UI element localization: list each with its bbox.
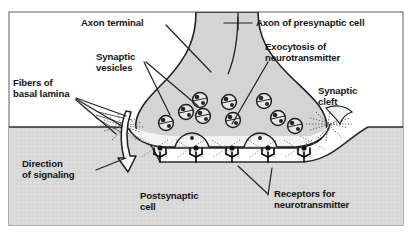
label-synaptic-vesicles-line1: Synaptic (96, 51, 136, 62)
synaptic-vesicle (226, 113, 241, 128)
label-synaptic-vesicles-line2: vesicles (96, 62, 133, 73)
label-direction-line1: Direction (22, 158, 63, 169)
synaptic-vesicle (193, 93, 208, 108)
synaptic-vesicle (271, 111, 286, 126)
label-exocytosis-line2: neurotransmitter (265, 52, 341, 63)
label-synaptic-cleft-line1: Synaptic (318, 85, 358, 96)
label-axon-presynaptic: Axon of presynaptic cell (256, 17, 365, 28)
synaptic-vesicle (257, 94, 272, 109)
fusing-vesicle (258, 136, 262, 140)
fusing-vesicle (190, 136, 194, 140)
label-postsynaptic-line2: cell (140, 201, 156, 212)
label-axon-terminal: Axon terminal (81, 17, 144, 28)
synaptic-vesicle (159, 116, 174, 131)
synapse-diagram-figure: Axon terminal Axon of presynaptic cell S… (0, 0, 413, 237)
label-fibers-line2: basal lamina (13, 88, 70, 99)
synaptic-vesicle (222, 95, 237, 110)
diagram-canvas: Axon terminal Axon of presynaptic cell S… (0, 0, 413, 237)
label-direction-line2: of signaling (22, 169, 75, 180)
synaptic-vesicle (196, 109, 211, 124)
synaptic-vesicle (288, 119, 303, 134)
label-exocytosis-line1: Exocytosis of (265, 41, 327, 52)
label-receptors-line2: neurotransmitter (274, 199, 350, 210)
label-fibers-line1: Fibers of (13, 77, 54, 88)
label-receptors-line1: Receptors for (274, 188, 335, 199)
synaptic-vesicle (179, 105, 194, 120)
label-postsynaptic-line1: Postsynaptic (140, 190, 199, 201)
label-synaptic-cleft-line2: cleft (318, 96, 338, 107)
